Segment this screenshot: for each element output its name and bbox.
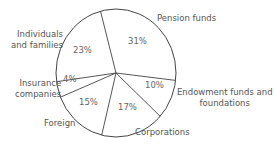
label-foreign: Foreign (44, 118, 75, 129)
pie-chart (0, 0, 275, 148)
label-endowment-line2: foundations (177, 98, 273, 109)
slice-pct-corporations: 17% (118, 102, 137, 112)
label-corporations: Corporations (135, 127, 190, 138)
label-insurance-line2: companies (15, 89, 61, 100)
slice-pct-insurance: 4% (63, 74, 77, 84)
slice-pct-endowment: 10% (145, 80, 164, 90)
label-endowment: Endowment funds and foundations (177, 87, 273, 108)
slice-pct-foreign: 15% (79, 97, 98, 107)
label-individuals-line2: and families (11, 40, 63, 51)
label-individuals-line1: Individuals (11, 29, 63, 40)
label-individuals: Individuals and families (11, 29, 63, 50)
label-endowment-line1: Endowment funds and (177, 87, 273, 98)
label-pension-funds: Pension funds (157, 13, 216, 24)
slice-pct-individuals: 23% (73, 45, 92, 55)
label-insurance-line1: Insurance (15, 78, 61, 89)
label-insurance: Insurance companies (15, 78, 61, 99)
slice-pct-pension: 31% (128, 36, 147, 46)
